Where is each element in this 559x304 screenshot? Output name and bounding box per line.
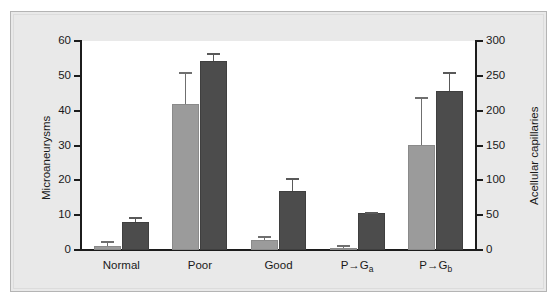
right-axis-tick: [477, 249, 483, 251]
error-bar-cap: [415, 97, 428, 99]
error-bar: [251, 236, 278, 240]
x-axis-category-label: Normal: [103, 259, 140, 271]
right-axis-tick-label: 100: [486, 174, 505, 186]
bar: [408, 145, 435, 250]
error-bar-stem: [421, 97, 422, 145]
error-bar-cap: [365, 212, 378, 214]
error-bar-stem: [185, 72, 186, 104]
bar: [436, 91, 463, 250]
error-bar: [122, 217, 149, 222]
left-axis-tick: [74, 214, 80, 216]
left-axis-tick-label: 50: [58, 70, 71, 82]
right-axis-tick-label: 150: [486, 140, 505, 152]
x-axis-category-label: P→Gb: [419, 259, 452, 271]
right-axis-tick: [477, 179, 483, 181]
right-axis-tick: [477, 145, 483, 147]
left-axis-tick: [74, 145, 80, 147]
left-axis-tick-label: 30: [58, 140, 71, 152]
error-bar: [436, 72, 463, 92]
left-axis-tick-label: 60: [58, 35, 71, 47]
right-axis-tick-label: 300: [486, 35, 505, 47]
bar: [358, 213, 385, 250]
bar: [172, 104, 199, 250]
left-axis-tick-label: 40: [58, 105, 71, 117]
bar: [122, 222, 149, 250]
bar: [279, 191, 306, 250]
right-axis-tick: [477, 110, 483, 112]
x-axis-category-label: Good: [264, 259, 292, 271]
left-axis-tick: [74, 110, 80, 112]
error-bar: [330, 245, 357, 248]
error-bar-cap: [337, 245, 350, 247]
right-axis-title: Acellular capillaries: [528, 107, 540, 205]
bar: [251, 240, 278, 250]
left-axis-line: [80, 40, 82, 251]
error-bar-stem: [449, 72, 450, 92]
bar: [330, 248, 357, 250]
left-axis-tick: [74, 75, 80, 77]
x-axis-category-label: Poor: [188, 259, 212, 271]
error-bar: [94, 241, 121, 246]
left-axis-tick: [74, 179, 80, 181]
error-bar-cap: [207, 53, 220, 55]
right-axis-tick-label: 0: [486, 244, 492, 256]
error-bar-cap: [101, 241, 114, 243]
left-axis-tick-label: 20: [58, 174, 71, 186]
left-axis-tick-label: 0: [65, 244, 71, 256]
figure: 0102030405060 050100150200250300 Microan…: [0, 0, 559, 304]
error-bar-cap: [179, 72, 192, 74]
error-bar-cap: [258, 236, 271, 238]
right-axis-tick: [477, 75, 483, 77]
right-axis-tick: [477, 214, 483, 216]
error-bar: [408, 97, 435, 145]
left-axis-tick: [74, 40, 80, 42]
error-bar: [279, 178, 306, 191]
error-bar-cap: [129, 217, 142, 219]
error-bar: [172, 72, 199, 104]
bar: [94, 246, 121, 250]
error-bar: [200, 53, 227, 61]
error-bar-cap: [286, 178, 299, 180]
left-axis-tick: [74, 249, 80, 251]
x-axis-category-label: P→Ga: [341, 259, 374, 271]
right-axis-tick-label: 250: [486, 70, 505, 82]
right-axis-tick: [477, 40, 483, 42]
bar: [200, 61, 227, 250]
left-axis-title: Microaneurysms: [40, 116, 52, 200]
right-axis-tick-label: 50: [486, 209, 499, 221]
right-axis-tick-label: 200: [486, 105, 505, 117]
left-axis-tick-label: 10: [58, 209, 71, 221]
error-bar: [358, 212, 385, 214]
error-bar-cap: [443, 72, 456, 74]
